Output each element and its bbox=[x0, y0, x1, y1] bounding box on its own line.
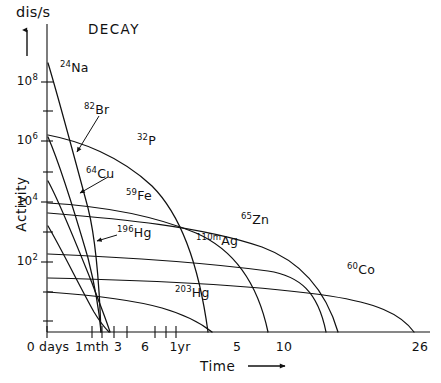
x-tick-label-6: 6 bbox=[136, 339, 154, 354]
x-tick-label-1yr: 1yr bbox=[162, 339, 198, 354]
y-tick-label-1e2: 102 bbox=[6, 254, 38, 268]
curve-label-cu64: 64Cu bbox=[86, 166, 114, 181]
curve-co60 bbox=[48, 278, 414, 332]
curve-label-ag110m: 110mAg bbox=[196, 233, 238, 248]
plot-canvas bbox=[0, 0, 441, 383]
x-axis-title: Time bbox=[200, 358, 235, 374]
pointer-hg196 bbox=[97, 235, 117, 241]
x-tick-label-26: 26 bbox=[408, 339, 432, 354]
y-tick-label-1e4: 104 bbox=[6, 194, 38, 208]
x-tick-label-3: 3 bbox=[109, 339, 127, 354]
y-axis-unit-label: dis/s bbox=[16, 4, 50, 20]
y-tick-label-1e8: 108 bbox=[6, 74, 38, 88]
curve-label-fe59: 59Fe bbox=[126, 188, 152, 203]
y-tick-label-1e6: 106 bbox=[6, 133, 38, 147]
curve-label-hg203: 203Hg bbox=[175, 285, 210, 300]
curve-label-co60: 60Co bbox=[347, 262, 375, 277]
x-tick-label-5: 5 bbox=[228, 339, 246, 354]
x-tick-label-10: 10 bbox=[272, 339, 296, 354]
curve-label-hg196: 196Hg bbox=[117, 225, 152, 240]
curve-label-p32: 32P bbox=[137, 133, 156, 148]
curve-label-zn65: 65Zn bbox=[241, 212, 269, 227]
decay-chart-figure: dis/s DECAY Activity Time 108 106 104 10… bbox=[0, 0, 441, 383]
x-tick-label-0days: 0 days bbox=[22, 339, 74, 354]
chart-title: DECAY bbox=[88, 21, 140, 37]
curve-label-br82: 82Br bbox=[84, 102, 109, 117]
curve-label-na24: 24Na bbox=[60, 60, 89, 75]
